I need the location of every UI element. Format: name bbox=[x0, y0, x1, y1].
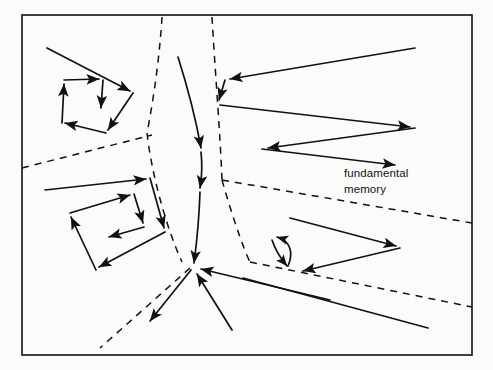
annotation-line-fundamental: fundamental bbox=[344, 167, 408, 179]
phase-portrait-canvas: fundamental memory bbox=[0, 0, 493, 370]
phase-portrait-figure: fundamental memory bbox=[0, 0, 493, 370]
figure-background bbox=[0, 0, 493, 370]
annotation-line-memory: memory bbox=[344, 183, 386, 195]
spiral-segment bbox=[64, 79, 99, 80]
